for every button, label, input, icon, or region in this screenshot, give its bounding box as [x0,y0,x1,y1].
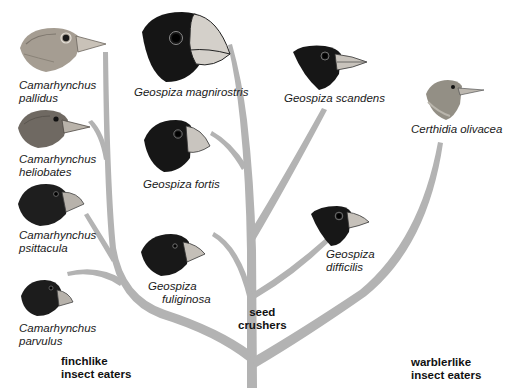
bird-head-geospiza-fortis-icon [142,118,212,174]
group-label-finchlike-insect-eaters: finchlike insect eaters [61,355,131,381]
species-label-geospiza-fortis: Geospiza fortis [143,178,220,191]
species-label-geospiza-magnirostris: Geospiza magnirostris [134,86,248,99]
species-label-geospiza-difficilis: Geospiza difficilis [326,248,375,274]
branch-fuliginosa [212,232,253,300]
bird-head-camarhynchus-parvulus-icon [19,278,75,318]
bird-head-geospiza-scandens-icon [291,42,369,92]
species-label-geospiza-scandens: Geospiza scandens [284,92,385,105]
darwin-finches-diagram: Camarhynchus pallidus Camarhynchus helio… [0,0,506,388]
bird-head-geospiza-fuliginosa-icon [139,232,207,278]
species-label-camarhynchus-pallidus: Camarhynchus pallidus [19,79,96,105]
branch-fortis [210,131,247,170]
bird-head-camarhynchus-psittacula-icon [16,182,86,228]
species-label-camarhynchus-psittacula: Camarhynchus psittacula [19,229,96,255]
bird-head-certhidia-olivacea-icon [424,78,486,122]
species-label-geospiza-fuliginosa: Geospiza fuliginosa [148,280,211,306]
group-label-warblerlike-insect-eaters: warblerlike insect eaters [411,356,481,382]
species-label-camarhynchus-heliobates: Camarhynchus heliobates [19,153,96,179]
bird-head-geospiza-difficilis-icon [309,204,371,248]
bird-head-camarhynchus-pallidus-icon [16,22,108,74]
species-label-camarhynchus-parvulus: Camarhynchus parvulus [19,322,96,348]
bird-head-geospiza-magnirostris-icon [138,10,234,84]
group-label-seed-crushers: seed crushers [238,306,287,332]
species-label-certhidia-olivacea: Certhidia olivacea [411,123,502,136]
bird-head-camarhynchus-heliobates-icon [16,106,92,150]
